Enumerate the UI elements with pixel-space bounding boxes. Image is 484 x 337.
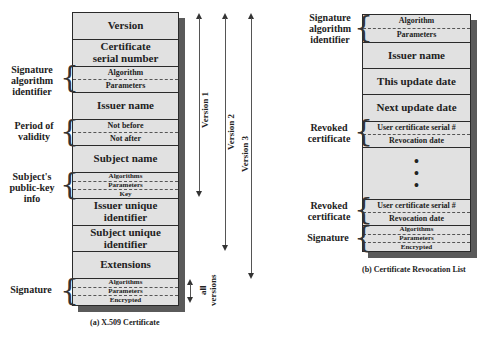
label-line: identifier xyxy=(302,34,358,45)
version-1-label: Version 1 xyxy=(200,92,210,128)
field-signature-algorithm: Algorithm Parameters xyxy=(363,15,470,42)
field-public-key-info: Algorithms Parameters Key xyxy=(73,172,178,198)
label-signature: Signature xyxy=(2,284,60,295)
label-line: identifier xyxy=(2,86,62,97)
crl-box: Algorithm Parameters Issuer name This up… xyxy=(362,14,471,252)
x509-box-shadow xyxy=(178,18,185,312)
crl-box-shadow xyxy=(470,20,477,258)
field-revoked-certificate-1: User certificate serial # Revocation dat… xyxy=(363,121,470,147)
field-label: serial number xyxy=(93,53,159,65)
version-3-label: Version 3 xyxy=(240,136,250,172)
label-signature-algorithm-identifier: Signature algorithm identifier xyxy=(2,64,62,97)
label-line: Signature xyxy=(2,284,60,295)
subfield-algorithms: Algorithms xyxy=(363,226,470,234)
field-label: This update date xyxy=(377,76,456,88)
version-1-arrow-down-icon xyxy=(196,191,202,197)
crl-caption: (b) Certificate Revocation List xyxy=(362,265,466,274)
field-ellipsis: • • • xyxy=(363,147,470,199)
label-line: algorithm xyxy=(302,23,358,34)
subfield-algorithms: Algorithms xyxy=(73,173,178,181)
field-label: Extensions xyxy=(100,259,151,271)
field-this-update-date: This update date xyxy=(363,68,470,94)
label-revoked-certificate-1: Revoked certificate xyxy=(300,122,358,144)
field-issuer-unique-identifier: Issuer unique identifier xyxy=(73,198,178,225)
label-line: Signature xyxy=(2,64,62,75)
subfield-not-after: Not after xyxy=(73,132,178,145)
subfield-algorithm: Algorithm xyxy=(73,67,178,79)
all-versions-arrow-line xyxy=(190,284,191,298)
x509-certificate-box: Version Certificate serial number Algori… xyxy=(72,12,179,306)
subfield-parameters: Parameters xyxy=(73,79,178,92)
field-label: Issuer name xyxy=(388,50,445,62)
version-3-arrow-line xyxy=(251,18,252,274)
field-signature-algorithm: Algorithm Parameters xyxy=(73,66,178,92)
all-versions-label: all versions xyxy=(198,275,218,307)
label-signature: Signature xyxy=(300,232,356,243)
subfield-user-certificate-serial: User certificate serial # xyxy=(363,122,470,134)
brace-icon: { xyxy=(354,12,373,42)
brace-icon: { xyxy=(354,116,373,146)
x509-caption: (a) X.509 Certificate xyxy=(90,318,160,327)
subfield-revocation-date: Revocation date xyxy=(363,212,470,225)
brace-icon: { xyxy=(60,169,79,199)
label-signature-algorithm-identifier: Signature algorithm identifier xyxy=(302,12,358,45)
subfield-key: Key xyxy=(73,189,178,198)
subfield-parameters: Parameters xyxy=(363,234,470,243)
version-2-label: Version 2 xyxy=(226,114,236,150)
field-label: identifier xyxy=(104,239,147,251)
label-line: all xyxy=(198,275,208,307)
crl-box-shadow-bottom xyxy=(368,251,477,258)
label-period-of-validity: Period of validity xyxy=(6,120,62,142)
field-issuer-name: Issuer name xyxy=(73,92,178,119)
field-label: Subject name xyxy=(94,153,158,165)
subfield-not-before: Not before xyxy=(73,120,178,132)
label-line: certificate xyxy=(300,211,358,222)
field-label: Next update date xyxy=(376,102,456,114)
label-line: Revoked xyxy=(300,200,358,211)
label-line: certificate xyxy=(300,133,358,144)
brace-icon: { xyxy=(354,222,373,252)
field-label: Subject unique xyxy=(90,227,161,239)
field-subject-unique-identifier: Subject unique identifier xyxy=(73,225,178,251)
field-issuer-name: Issuer name xyxy=(363,42,470,68)
label-line: Period of xyxy=(6,120,62,131)
field-revoked-certificate-2: User certificate serial # Revocation dat… xyxy=(363,199,470,225)
field-label: identifier xyxy=(104,212,147,224)
field-label: Version xyxy=(108,20,144,32)
label-line: Signature xyxy=(300,232,356,243)
subfield-revocation-date: Revocation date xyxy=(363,134,470,147)
subfield-parameters: Parameters xyxy=(363,28,470,42)
subfield-encrypted: Encrypted xyxy=(363,242,470,251)
field-serial-number: Certificate serial number xyxy=(73,39,178,66)
subfield-encrypted: Encrypted xyxy=(73,295,178,304)
x509-box-shadow-bottom xyxy=(78,305,185,312)
label-line: public-key xyxy=(2,182,62,193)
subfield-parameters: Parameters xyxy=(73,181,178,190)
field-version: Version xyxy=(73,13,178,39)
subfield-algorithm: Algorithm xyxy=(363,15,470,28)
field-extensions: Extensions xyxy=(73,251,178,278)
label-line: validity xyxy=(6,131,62,142)
brace-icon: { xyxy=(60,116,79,146)
version-3-arrow-down-icon xyxy=(248,273,254,279)
version-2-arrow-down-icon xyxy=(222,245,228,251)
field-subject-name: Subject name xyxy=(73,145,178,172)
label-line: Revoked xyxy=(300,122,358,133)
label-subject-public-key-info: Subject's public-key info xyxy=(2,171,62,204)
subfield-algorithms: Algorithms xyxy=(73,279,178,287)
ellipsis-dot-icon: • xyxy=(414,180,419,192)
label-line: info xyxy=(2,193,62,204)
brace-icon: { xyxy=(60,275,79,305)
field-next-update-date: Next update date xyxy=(363,94,470,121)
field-label: Issuer name xyxy=(97,100,154,112)
all-versions-arrow-down-icon xyxy=(187,297,193,303)
label-line: algorithm xyxy=(2,75,62,86)
label-line: Subject's xyxy=(2,171,62,182)
brace-icon: { xyxy=(60,62,79,92)
field-validity: Not before Not after xyxy=(73,119,178,145)
label-line: Signature xyxy=(302,12,358,23)
label-revoked-certificate-2: Revoked certificate xyxy=(300,200,358,222)
subfield-parameters: Parameters xyxy=(73,287,178,296)
label-line: versions xyxy=(208,275,218,307)
field-signature: Algorithms Parameters Encrypted xyxy=(363,225,470,251)
